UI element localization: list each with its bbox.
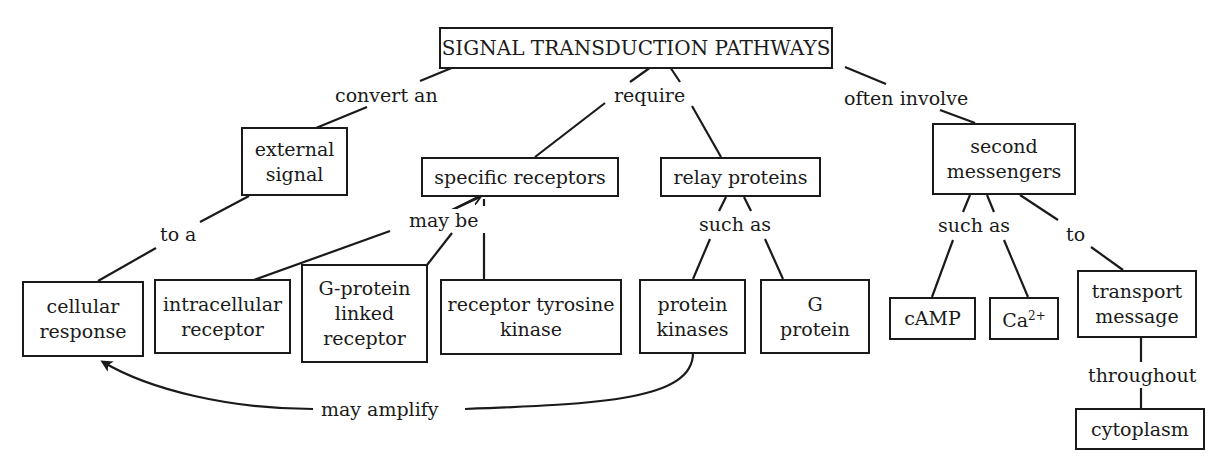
node-label: external signal xyxy=(255,137,335,187)
link-label-such-as-second: such as xyxy=(936,214,1012,236)
node-label: cAMP xyxy=(904,306,961,331)
node-label: cellular response xyxy=(40,294,127,344)
link-label-require: require xyxy=(612,84,687,106)
node-label: Ca2+ xyxy=(1002,304,1046,333)
node-signal-transduction-pathways: SIGNAL TRANSDUCTION PATHWAYS xyxy=(439,27,833,69)
node-label: G-protein linked receptor xyxy=(319,276,411,351)
node-label: relay proteins xyxy=(673,165,807,190)
node-second-messengers: second messengers xyxy=(932,123,1076,195)
node-label: intracellular receptor xyxy=(163,292,282,342)
node-g-protein-linked-receptor: G-protein linked receptor xyxy=(301,264,428,363)
node-camp: cAMP xyxy=(889,297,976,340)
node-cellular-response: cellular response xyxy=(22,281,144,357)
link-label-throughout: throughout xyxy=(1086,364,1198,386)
link-label-such-as-relay: such as xyxy=(697,213,773,235)
node-label: receptor tyrosine kinase xyxy=(448,292,615,342)
link-label-to-a: to a xyxy=(158,223,198,245)
node-label: SIGNAL TRANSDUCTION PATHWAYS xyxy=(442,36,831,61)
node-label: cytoplasm xyxy=(1091,417,1189,442)
node-label: specific receptors xyxy=(434,165,606,190)
node-label: second messengers xyxy=(947,134,1061,184)
node-cytoplasm: cytoplasm xyxy=(1075,408,1205,450)
link-label-may-amplify: may amplify xyxy=(319,398,441,420)
node-calcium-ion: Ca2+ xyxy=(989,297,1059,340)
node-label: transport message xyxy=(1092,279,1182,329)
node-relay-proteins: relay proteins xyxy=(660,157,821,197)
node-transport-message: transport message xyxy=(1077,270,1197,338)
link-label-to: to xyxy=(1064,223,1087,245)
node-intracellular-receptor: intracellular receptor xyxy=(154,279,291,354)
node-receptor-tyrosine-kinase: receptor tyrosine kinase xyxy=(440,279,622,355)
node-label: protein kinases xyxy=(657,292,729,342)
node-external-signal: external signal xyxy=(241,127,348,196)
node-specific-receptors: specific receptors xyxy=(421,157,619,197)
node-g-protein: G protein xyxy=(760,279,870,354)
link-label-may-be: may be xyxy=(407,209,481,231)
node-protein-kinases: protein kinases xyxy=(639,279,746,354)
node-label: G protein xyxy=(780,292,850,342)
link-label-convert-an: convert an xyxy=(333,84,440,106)
link-label-often-involve: often involve xyxy=(842,87,970,109)
